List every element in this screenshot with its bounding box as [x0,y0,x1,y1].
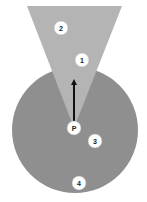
marker-2-label: 2 [59,25,63,32]
marker-3-label: 3 [93,138,97,145]
marker-p: P [67,121,81,135]
diagram-canvas: 2 1 P 3 4 [0,0,147,202]
marker-4-label: 4 [77,180,81,187]
marker-1-label: 1 [80,57,84,64]
marker-4: 4 [72,176,86,190]
marker-3: 3 [88,134,102,148]
marker-2: 2 [54,21,68,35]
marker-1: 1 [75,53,89,67]
marker-p-label: P [72,125,77,132]
